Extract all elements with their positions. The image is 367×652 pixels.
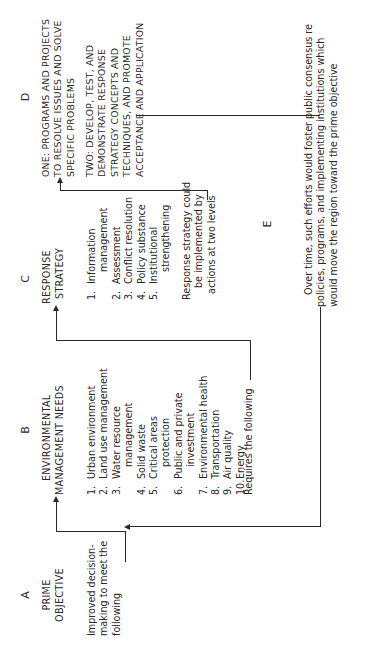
- heading-line: OBJECTIVE: [54, 560, 67, 630]
- arrow-right-icon: [53, 305, 59, 311]
- list-item: 7.Environmental health: [198, 368, 210, 495]
- text-line: TWO: DEVELOP, TEST, AND: [84, 23, 96, 177]
- column-d-letter: D: [20, 87, 32, 107]
- heading-line: PRIME: [41, 560, 54, 630]
- connector-b-c-horizontal: [56, 311, 57, 341]
- rotated-diagram-page: A PRIME OBJECTIVE Improved decision- mak…: [0, 0, 367, 652]
- list-item: 5.Critical areasprotection: [148, 368, 173, 495]
- connector-b-c-vertical: [56, 340, 251, 341]
- list-item: 2.Land use management: [98, 368, 110, 495]
- connector-a-b-horizontal: [56, 502, 57, 532]
- text-line: TO RESOLVE ISSUES AND SOLVE: [52, 19, 64, 177]
- column-c-heading: RESPONSE STRATEGY: [41, 248, 66, 304]
- column-a-letter: A: [20, 585, 32, 605]
- list-item: 1.Urban environment: [86, 368, 98, 495]
- connector-d-e-vertical: [136, 115, 320, 116]
- list-item: 4.Solid waste: [136, 368, 148, 495]
- column-b-list: 1.Urban environment 2.Land use managemen…: [86, 368, 247, 495]
- connector-a-b-tail: [125, 531, 126, 562]
- list-item: 5.Institutionalstrengthening: [148, 197, 173, 300]
- column-c-letter: C: [20, 269, 32, 289]
- text-line: Response strategy could: [181, 182, 193, 300]
- text-line: following: [111, 541, 123, 636]
- text-line: would move the region toward the prime o…: [328, 24, 340, 307]
- column-b-footer: Requires the following: [243, 388, 255, 495]
- column-c-list: 1.Informationmanagement 2.Assessment 3.C…: [86, 197, 173, 300]
- text-line: STRATEGY CONCEPTS AND: [109, 23, 121, 177]
- connector-e-a-horizontal: [320, 307, 321, 527]
- text-line: making to meet the: [98, 541, 110, 636]
- heading-line: RESPONSE: [41, 248, 54, 304]
- heading-line: MANAGEMENT NEEDS: [54, 363, 67, 495]
- text-line: be implemented by: [193, 182, 205, 300]
- column-a-text: Improved decision- making to meet the fo…: [86, 541, 123, 636]
- column-e-letter: E: [262, 214, 274, 234]
- list-item: 1.Informationmanagement: [86, 197, 111, 300]
- list-item: 2.Assessment: [111, 197, 123, 300]
- list-item: 8.Transportation: [210, 368, 222, 495]
- text-line: SPECIFIC PROBLEMS: [65, 19, 77, 177]
- arrow-up-icon: [124, 524, 130, 530]
- list-item: 9.Air quality: [222, 368, 234, 495]
- list-item: 3.Conflict resolution: [123, 197, 135, 300]
- text-line: policies, programs, and implementing ins…: [315, 24, 327, 307]
- text-line: TECHNIQUES, AND PROMOTE: [121, 23, 133, 177]
- heading-line: ENVIRONMENTAL: [41, 363, 54, 495]
- text-line: DEMONSTRATE RESPONSE: [96, 23, 108, 177]
- column-a-heading: PRIME OBJECTIVE: [41, 560, 66, 630]
- list-item: 3.Water resourcemanagement: [111, 368, 136, 495]
- arrow-right-icon: [53, 496, 59, 502]
- connector-c-d-horizontal: [60, 183, 61, 191]
- arrow-right-icon: [57, 177, 63, 183]
- list-item: 6.Public and privateinvestment: [173, 368, 198, 495]
- connector-e-a-vertical: [130, 526, 321, 527]
- column-d-level-one: ONE: PROGRAMS AND PROJECTS TO RESOLVE IS…: [40, 19, 77, 177]
- text-line: ACCEPTANCE AND APPLICATION: [134, 23, 146, 177]
- connector-b-c-tail: [250, 340, 251, 380]
- column-b-heading: ENVIRONMENTAL MANAGEMENT NEEDS: [41, 363, 66, 495]
- column-e-text: Over time, such efforts would foster pub…: [303, 24, 340, 307]
- heading-line: STRATEGY: [54, 248, 67, 304]
- text-line: Improved decision-: [86, 541, 98, 636]
- column-c-footer: Response strategy could be implemented b…: [181, 182, 218, 300]
- list-item: 4.Policy substance: [136, 197, 148, 300]
- text-line: ONE: PROGRAMS AND PROJECTS: [40, 19, 52, 177]
- text-line: Over time, such efforts would foster pub…: [303, 24, 315, 307]
- column-b-letter: B: [20, 420, 32, 440]
- connector-c-d-vertical: [60, 190, 208, 191]
- column-d-level-two: TWO: DEVELOP, TEST, AND DEMONSTRATE RESP…: [84, 23, 146, 177]
- connector-c-d-tail: [207, 190, 208, 200]
- connector-a-b-vertical: [56, 531, 125, 532]
